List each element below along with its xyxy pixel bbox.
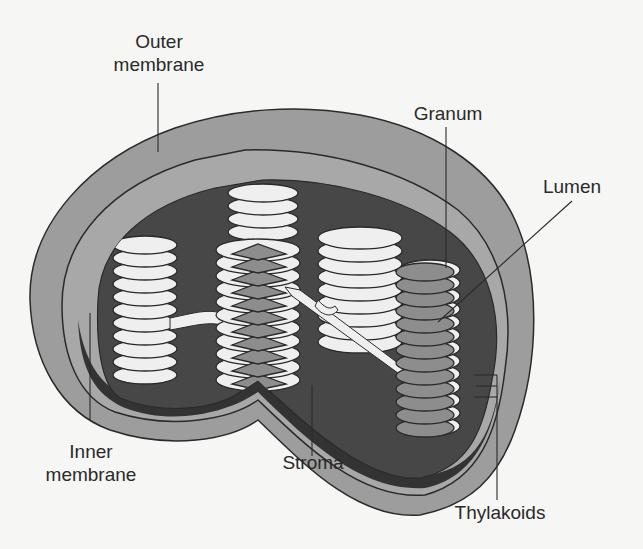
granum-right-middle bbox=[318, 227, 402, 353]
granum-middle bbox=[216, 239, 300, 391]
granum-front-right bbox=[396, 260, 460, 437]
label-stroma-text: Stroma bbox=[268, 451, 358, 474]
label-thylakoids-text: Thylakoids bbox=[440, 501, 560, 524]
label-stroma: Stroma bbox=[268, 451, 358, 474]
label-inner-membrane: Inner membrane bbox=[35, 440, 147, 486]
label-granum-text: Granum bbox=[402, 102, 494, 125]
label-granum: Granum bbox=[402, 102, 494, 125]
granum-left bbox=[113, 236, 177, 384]
granum-back bbox=[228, 184, 298, 241]
label-outer-membrane-line1: Outer bbox=[103, 30, 215, 53]
label-outer-membrane-line2: membrane bbox=[103, 53, 215, 76]
label-lumen: Lumen bbox=[532, 175, 612, 198]
label-inner-membrane-line1: Inner bbox=[35, 440, 147, 463]
label-outer-membrane: Outer membrane bbox=[103, 30, 215, 76]
label-thylakoids: Thylakoids bbox=[440, 501, 560, 524]
label-lumen-text: Lumen bbox=[532, 175, 612, 198]
label-inner-membrane-line2: membrane bbox=[35, 463, 147, 486]
